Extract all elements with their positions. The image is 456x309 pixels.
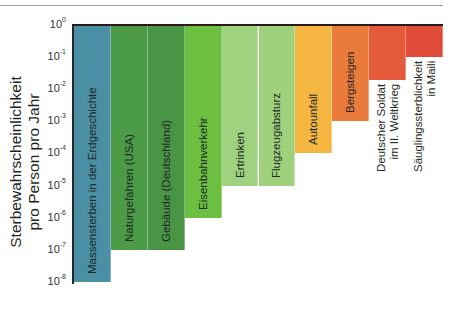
y-tick-label: 10-4 (48, 145, 66, 158)
y-tick-label: 100 (50, 17, 66, 30)
y-tick-label: 10-7 (48, 242, 66, 255)
bar (406, 25, 443, 57)
bar (369, 25, 406, 80)
y-tick-label: 10-1 (48, 49, 66, 62)
y-axis-ticks: 10010-110-210-310-410-510-610-710-8 (0, 0, 72, 309)
y-tick-label: 10-2 (48, 81, 66, 94)
plot-area: Massensterben in der ErdgeschichteNaturg… (74, 25, 443, 283)
top-axis-line (72, 24, 443, 26)
y-tick-label: 10-8 (48, 274, 66, 287)
y-tick-label: 10-3 (48, 113, 66, 126)
y-axis-line (72, 24, 74, 284)
y-tick-label: 10-6 (48, 210, 66, 223)
y-tick-label: 10-5 (48, 178, 66, 191)
